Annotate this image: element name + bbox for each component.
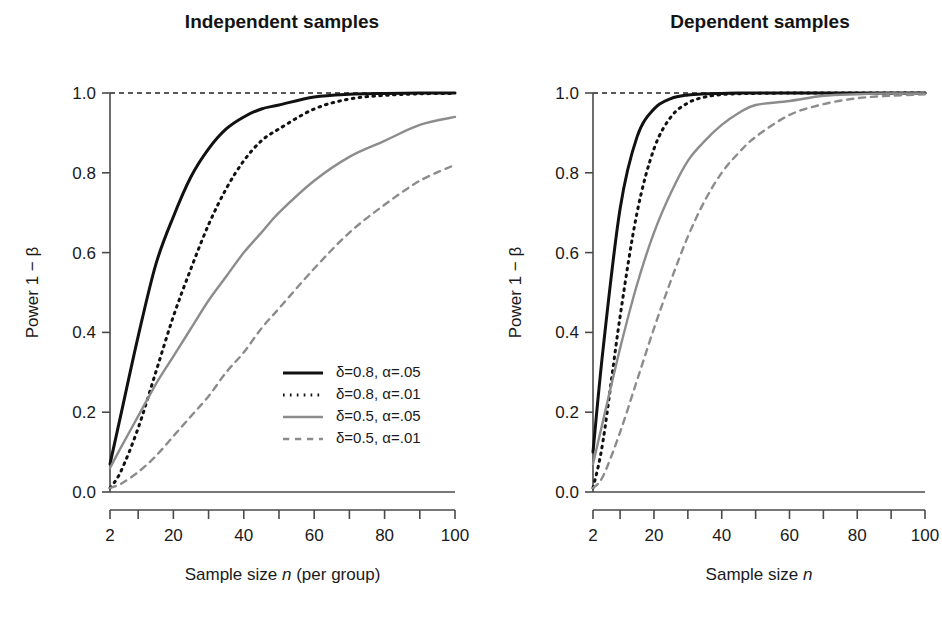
legend-label-0: δ=0.8, α=.05 [336, 363, 421, 380]
x-tick-label: 20 [645, 526, 664, 545]
x-tick-label: 2 [105, 526, 114, 545]
x-tick-label: 60 [305, 526, 324, 545]
x-axis-title-independent: Sample size n (per group) [185, 565, 381, 584]
y-tick-label: 0.0 [72, 483, 96, 502]
x-tick-label: 80 [375, 526, 394, 545]
y-tick-label: 0.0 [555, 483, 579, 502]
x-tick-label: 100 [911, 526, 939, 545]
panel-title-dependent: Dependent samples [670, 11, 850, 32]
x-tick-label: 40 [234, 526, 253, 545]
x-tick-label: 40 [712, 526, 731, 545]
y-tick-label: 0.6 [72, 244, 96, 263]
x-tick-label: 60 [780, 526, 799, 545]
legend-label-3: δ=0.5, α=.01 [336, 429, 421, 446]
y-tick-label: 0.8 [555, 164, 579, 183]
y-tick-label: 1.0 [555, 84, 579, 103]
x-axis-title-pre: Sample size [706, 565, 803, 584]
y-tick-label: 1.0 [72, 84, 96, 103]
x-tick-label: 20 [164, 526, 183, 545]
x-axis-title-variable: n [803, 565, 812, 584]
legend-label-2: δ=0.5, α=.05 [336, 407, 421, 424]
panel-title-independent: Independent samples [185, 11, 379, 32]
x-axis-title-pre: Sample size [185, 565, 282, 584]
x-axis-title-post: (per group) [291, 565, 380, 584]
legend-label-1: δ=0.8, α=.01 [336, 385, 421, 402]
y-tick-label: 0.8 [72, 164, 96, 183]
y-tick-label: 0.4 [72, 323, 96, 342]
y-axis-title-dependent: Power 1 − β [506, 247, 525, 339]
power-curve-figure: Independent samples0.00.20.40.60.81.0220… [0, 0, 942, 618]
y-axis-title-independent: Power 1 − β [23, 247, 42, 339]
y-tick-label: 0.4 [555, 323, 579, 342]
x-axis-title-dependent: Sample size n [706, 565, 813, 584]
x-tick-label: 80 [848, 526, 867, 545]
y-tick-label: 0.6 [555, 244, 579, 263]
y-tick-label: 0.2 [72, 403, 96, 422]
x-tick-label: 100 [441, 526, 469, 545]
x-axis-title-variable: n [282, 565, 291, 584]
y-tick-label: 0.2 [555, 403, 579, 422]
x-tick-label: 2 [588, 526, 597, 545]
